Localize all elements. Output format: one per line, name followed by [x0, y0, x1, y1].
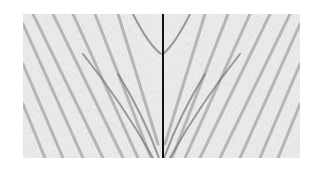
texture-panel	[23, 14, 300, 158]
center-divider-line	[162, 14, 164, 158]
